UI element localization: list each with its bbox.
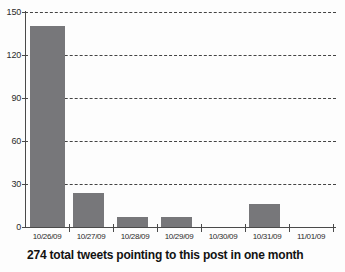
x-tick-3 [201,224,202,232]
y-axis-line [25,11,26,228]
y-tick-90 [22,98,28,99]
y-tick-30 [22,184,28,185]
y-axis-label-30: 30 [1,180,21,189]
gridline-120 [25,55,336,56]
bar-10-31-09 [249,204,280,227]
y-axis-label-90: 90 [1,94,21,103]
bar-10-28-09 [117,217,148,227]
y-axis-label-0: 0 [1,223,21,232]
y-axis-label-150: 150 [1,8,21,17]
x-axis-label-11-01-09: 11/01/09 [283,232,339,241]
x-tick-6 [333,224,334,232]
y-tick-0 [22,227,28,228]
gridline-90 [25,98,336,99]
x-tick-0 [69,224,70,232]
y-axis-label-60: 60 [1,137,21,146]
y-tick-60 [22,141,28,142]
x-tick-4 [245,224,246,232]
x-tick-5 [289,224,290,232]
tweet-volume-bar-chart: 150 120 90 60 30 0 10/26/09 10/27/09 10/… [0,0,345,272]
plot-area [25,12,336,227]
bar-10-29-09 [161,217,192,227]
y-tick-120 [22,55,28,56]
gridline-30 [25,184,336,185]
gridline-150 [25,12,336,13]
bar-10-27-09 [73,193,104,227]
bar-10-26-09 [30,26,65,227]
gridline-60 [25,141,336,142]
x-tick-2 [157,224,158,232]
x-tick-1 [113,224,114,232]
y-axis-label-120: 120 [1,51,21,60]
chart-caption: 274 total tweets pointing to this post i… [27,248,303,262]
y-tick-150 [22,12,28,13]
